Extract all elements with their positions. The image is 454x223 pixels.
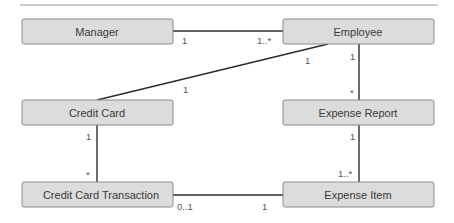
class-label: Credit Card <box>69 107 125 119</box>
class-expense-report[interactable]: Expense Report <box>283 100 434 125</box>
mult-employee-creditcard-creditcard-end: 1 <box>183 84 188 95</box>
class-manager[interactable]: Manager <box>22 19 173 44</box>
class-label: Manager <box>75 26 119 38</box>
mult-manager-employee-employee-end: 1..* <box>257 35 272 46</box>
mult-transaction-item-item-end: 1 <box>262 201 267 212</box>
class-label: Expense Report <box>319 107 398 119</box>
class-credit-card-transaction[interactable]: Credit Card Transaction <box>22 182 173 207</box>
class-label: Credit Card Transaction <box>43 189 159 201</box>
class-credit-card[interactable]: Credit Card <box>22 100 173 125</box>
association-employee-creditcard <box>97 44 328 100</box>
mult-report-item-report-end: 1 <box>350 131 355 142</box>
mult-creditcard-transaction-transaction-end: * <box>86 169 90 180</box>
mult-employee-report-employee-end: 1 <box>350 51 355 62</box>
uml-class-diagram: 1 1..* 1 1 1 * 1 * 1 1..* 0..1 1 Manager… <box>0 0 454 223</box>
class-employee[interactable]: Employee <box>283 19 434 44</box>
class-expense-item[interactable]: Expense Item <box>283 182 434 207</box>
class-label: Employee <box>334 26 383 38</box>
mult-creditcard-transaction-creditcard-end: 1 <box>86 131 91 142</box>
mult-manager-employee-manager-end: 1 <box>182 35 187 46</box>
mult-employee-creditcard-employee-end: 1 <box>305 55 310 66</box>
mult-report-item-item-end: 1..* <box>338 168 353 179</box>
mult-transaction-item-transaction-end: 0..1 <box>177 201 193 212</box>
mult-employee-report-report-end: * <box>350 87 354 98</box>
class-label: Expense Item <box>324 189 391 201</box>
